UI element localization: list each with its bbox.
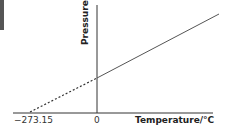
solid-line xyxy=(97,14,219,78)
dashed-extrapolation xyxy=(30,78,97,112)
y-axis-label: Pressure xyxy=(80,5,92,45)
x-tick-neg: −273.15 xyxy=(14,115,53,125)
x-tick-zero: 0 xyxy=(94,115,100,125)
x-axis-label: Temperature/°C xyxy=(135,115,214,125)
